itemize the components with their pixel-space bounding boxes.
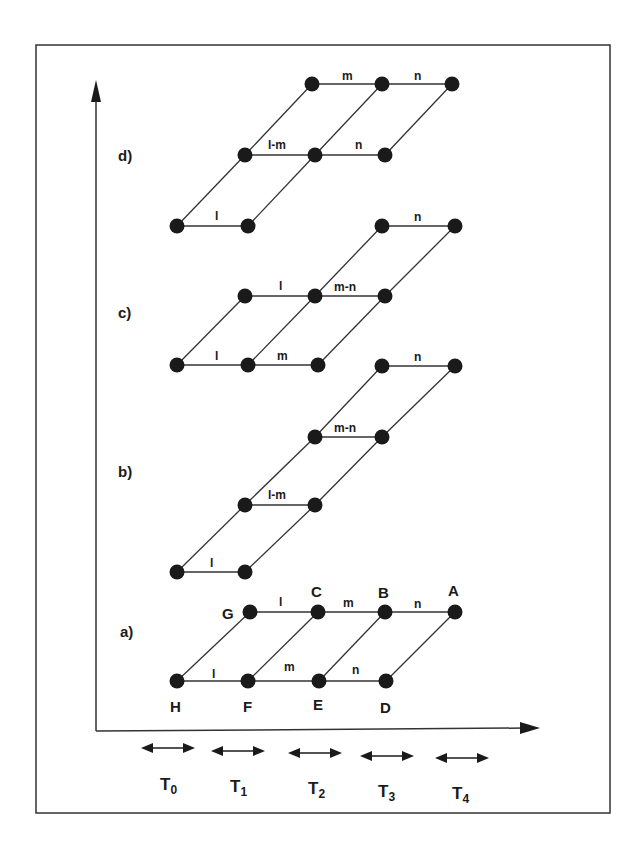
edge bbox=[382, 366, 455, 437]
x-axis-arrow-icon bbox=[520, 722, 540, 734]
panel-label-a: a) bbox=[120, 623, 133, 640]
node bbox=[311, 605, 326, 620]
node bbox=[311, 358, 326, 373]
node bbox=[170, 219, 185, 234]
lattice-diagram: a)lmnlmnHFEDGCBAb)ll-mm-nnc)lmlm-nnd)ll-… bbox=[0, 0, 643, 852]
time-interval-T1: T1 bbox=[211, 746, 265, 799]
labels: a)lmnlmnHFEDGCBAb)ll-mm-nnc)lmlm-nnd)ll-… bbox=[118, 69, 459, 716]
left-arrow-icon bbox=[435, 753, 447, 763]
edge-label: l bbox=[210, 556, 213, 570]
node bbox=[308, 498, 323, 513]
node bbox=[238, 498, 253, 513]
edge-label: l bbox=[279, 279, 282, 293]
node bbox=[238, 565, 253, 580]
time-interval-T2: T2 bbox=[288, 748, 342, 801]
node bbox=[378, 605, 393, 620]
time-intervals: T0T1T2T3T4 bbox=[141, 743, 489, 806]
right-arrow-icon bbox=[330, 748, 342, 758]
node bbox=[308, 148, 323, 163]
edge-label: n bbox=[414, 210, 421, 224]
interval-label: T2 bbox=[308, 779, 325, 801]
time-interval-T4: T4 bbox=[435, 753, 489, 806]
node bbox=[378, 148, 393, 163]
edge bbox=[177, 296, 245, 365]
panel-label-c: c) bbox=[118, 304, 131, 321]
edge-label: l-m bbox=[268, 488, 286, 502]
edge-label: n bbox=[414, 597, 421, 611]
interval-label: T0 bbox=[160, 775, 177, 797]
node bbox=[448, 219, 463, 234]
left-arrow-icon bbox=[211, 746, 223, 756]
edge-label: n bbox=[355, 138, 362, 152]
node bbox=[375, 219, 390, 234]
edge bbox=[386, 612, 455, 681]
node bbox=[170, 674, 185, 689]
interval-label: T1 bbox=[230, 777, 247, 799]
panel-label-b: b) bbox=[118, 463, 132, 480]
right-arrow-icon bbox=[402, 751, 414, 761]
node bbox=[305, 77, 320, 92]
edge-label: m-n bbox=[334, 280, 356, 294]
node bbox=[375, 359, 390, 374]
node-label: G bbox=[222, 605, 234, 622]
edge bbox=[385, 226, 455, 296]
edge-label: n bbox=[414, 350, 421, 364]
node bbox=[308, 430, 323, 445]
node bbox=[375, 77, 390, 92]
node-label: A bbox=[448, 582, 459, 599]
edge bbox=[385, 84, 452, 155]
edge-label: n bbox=[414, 69, 421, 83]
edge-label: l bbox=[212, 667, 215, 681]
edge-label: l bbox=[215, 209, 218, 223]
edge-label: l bbox=[279, 595, 282, 609]
node bbox=[445, 77, 460, 92]
edge-label: l-m bbox=[268, 138, 286, 152]
node bbox=[312, 674, 327, 689]
panel-label-d: d) bbox=[118, 147, 132, 164]
node-label: E bbox=[313, 696, 323, 713]
node bbox=[170, 565, 185, 580]
node bbox=[378, 289, 393, 304]
right-arrow-icon bbox=[477, 753, 489, 763]
axes bbox=[91, 80, 540, 734]
node bbox=[241, 674, 256, 689]
x-axis bbox=[96, 728, 526, 731]
y-axis-arrow-icon bbox=[91, 80, 101, 102]
node-label: D bbox=[380, 699, 391, 716]
time-interval-T0: T0 bbox=[141, 743, 195, 797]
edge-label: m bbox=[343, 596, 354, 610]
time-interval-T3: T3 bbox=[360, 751, 414, 804]
edge-label: m bbox=[342, 69, 353, 83]
edge bbox=[248, 155, 315, 226]
interval-label: T4 bbox=[452, 784, 469, 806]
edge bbox=[315, 84, 382, 155]
node bbox=[170, 358, 185, 373]
node bbox=[448, 605, 463, 620]
edge bbox=[177, 155, 245, 226]
edge-label: l bbox=[215, 349, 218, 363]
node bbox=[375, 430, 390, 445]
node-label: F bbox=[243, 698, 252, 715]
edge-label: m bbox=[284, 660, 295, 674]
node bbox=[448, 359, 463, 374]
node bbox=[238, 289, 253, 304]
node bbox=[308, 289, 323, 304]
edge-label: m-n bbox=[334, 421, 356, 435]
node bbox=[241, 358, 256, 373]
edge bbox=[315, 437, 382, 505]
edge-label: n bbox=[352, 663, 359, 677]
node-label: C bbox=[311, 583, 322, 600]
node bbox=[241, 219, 256, 234]
left-arrow-icon bbox=[360, 751, 372, 761]
node bbox=[238, 148, 253, 163]
left-arrow-icon bbox=[288, 748, 300, 758]
edge bbox=[318, 296, 385, 365]
right-arrow-icon bbox=[183, 743, 195, 753]
left-arrow-icon bbox=[141, 743, 153, 753]
right-arrow-icon bbox=[253, 746, 265, 756]
node-label: H bbox=[170, 698, 181, 715]
interval-label: T3 bbox=[378, 782, 395, 804]
node bbox=[243, 605, 258, 620]
edge bbox=[245, 505, 315, 572]
edge-label: m bbox=[277, 349, 288, 363]
